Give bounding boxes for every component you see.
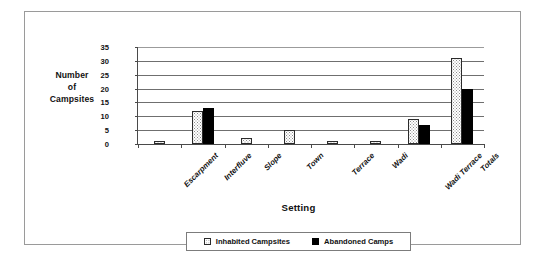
bar-abandoned[interactable] — [462, 89, 473, 144]
bar-group-bars — [398, 47, 441, 144]
x-tick-mark — [138, 144, 139, 148]
x-category-label: Town — [305, 151, 326, 172]
y-tick-label: 0 — [87, 140, 109, 149]
x-tick-mark — [354, 144, 355, 148]
bar-group-bars — [225, 47, 268, 144]
bar-group-bars — [138, 47, 181, 144]
bar-group — [138, 47, 181, 144]
x-category-label: Escarpment — [182, 151, 220, 189]
legend-label-inhabited: Inhabited Campsites — [216, 237, 290, 246]
bar-inhabited[interactable] — [327, 141, 338, 144]
bar-group-bars — [441, 47, 484, 144]
y-tick-label: 35 — [87, 43, 109, 52]
x-tick-mark — [225, 144, 226, 148]
x-category-label: Interfluve — [223, 151, 254, 182]
legend-swatch-icon-abandoned — [312, 238, 319, 245]
bar-group-bars — [268, 47, 311, 144]
y-tick-label: 5 — [87, 126, 109, 135]
bar-inhabited[interactable] — [192, 111, 203, 144]
y-tick-label: 10 — [87, 112, 109, 121]
legend-label-abandoned: Abandoned Camps — [324, 237, 393, 246]
bar-abandoned[interactable] — [419, 125, 430, 144]
bar-inhabited[interactable] — [241, 138, 252, 144]
x-axis-title: Setting — [113, 202, 484, 213]
x-category-label: Slope — [262, 151, 283, 172]
x-tick-mark — [484, 144, 485, 148]
x-category-label: Wadi Terrace — [443, 151, 484, 192]
plot-area: 05101520253035EscarpmentInterfluveSlopeT… — [113, 47, 484, 145]
x-tick-mark — [398, 144, 399, 148]
x-tick-mark — [441, 144, 442, 148]
y-tick-label: 15 — [87, 98, 109, 107]
bar-group — [354, 47, 397, 144]
bar-group-bars — [354, 47, 397, 144]
x-tick-mark — [268, 144, 269, 148]
y-tick-label: 25 — [87, 70, 109, 79]
legend-swatch-icon-inhabited — [204, 238, 211, 245]
y-tick-label: 30 — [87, 56, 109, 65]
chart-figure-frame: Number of Campsites 05101520253035Escarp… — [24, 11, 521, 245]
legend-item-inhabited-campsites[interactable]: Inhabited Campsites — [204, 237, 290, 246]
bar-inhabited[interactable] — [154, 141, 165, 144]
axis-region — [137, 47, 484, 145]
bar-group — [225, 47, 268, 144]
chart-legend: Inhabited Campsites Abandoned Camps — [186, 232, 411, 251]
x-tick-mark — [311, 144, 312, 148]
x-category-label: Terrace — [350, 151, 376, 177]
bar-group-bars — [181, 47, 224, 144]
bar-group — [181, 47, 224, 144]
bar-inhabited[interactable] — [284, 130, 295, 144]
y-tick-label: 20 — [87, 84, 109, 93]
bar-inhabited[interactable] — [370, 141, 381, 144]
bar-group-bars — [311, 47, 354, 144]
bar-group — [398, 47, 441, 144]
bar-inhabited[interactable] — [451, 58, 462, 144]
x-category-label: Wadi — [391, 151, 410, 170]
legend-item-abandoned-camps[interactable]: Abandoned Camps — [312, 237, 393, 246]
bar-group — [268, 47, 311, 144]
bar-group — [311, 47, 354, 144]
bar-group — [441, 47, 484, 144]
bar-abandoned[interactable] — [203, 108, 214, 144]
bar-inhabited[interactable] — [408, 119, 419, 144]
x-tick-mark — [181, 144, 182, 148]
